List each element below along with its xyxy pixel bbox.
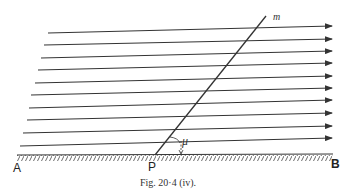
- label-A: A: [13, 161, 21, 175]
- ground-wall: [17, 154, 333, 161]
- stream-line: [44, 39, 332, 45]
- label-P: P: [148, 160, 156, 174]
- stream-line: [35, 76, 332, 83]
- stream-line: [27, 113, 332, 120]
- stream-line: [31, 88, 332, 95]
- stream-line: [20, 138, 332, 146]
- stream-line: [38, 63, 332, 70]
- stream-line: [48, 26, 332, 33]
- label-m: m: [273, 11, 280, 22]
- label-B: B: [331, 157, 340, 171]
- stream-line: [29, 100, 332, 108]
- stream-line: [41, 51, 332, 58]
- figure-caption: Fig. 20·4 (iv).: [140, 177, 196, 189]
- diagram-canvas: μ m A P B Fig. 20·4 (iv).: [0, 0, 348, 195]
- mach-line: [155, 16, 266, 155]
- label-mu: μ: [181, 134, 188, 148]
